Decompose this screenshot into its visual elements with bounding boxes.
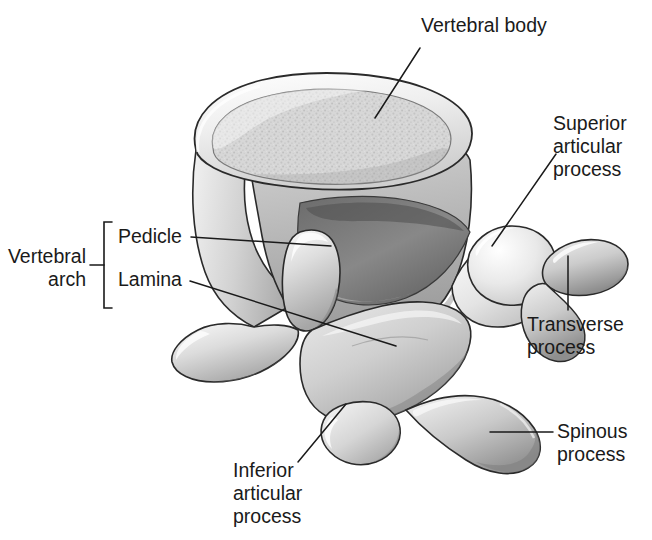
label-spinous-process: Spinous process [557, 420, 627, 466]
label-transverse-process: Transverse process [527, 313, 624, 359]
label-lamina: Lamina [118, 268, 182, 291]
vertebra-illustration [0, 0, 652, 540]
vertebral-arch-bracket [90, 222, 112, 308]
label-inferior-articular-process: Inferior articular process [233, 459, 302, 528]
transverse-process-left [172, 324, 299, 382]
label-pedicle: Pedicle [118, 225, 182, 248]
inferior-articular-process [321, 402, 400, 465]
label-superior-articular-process: Superior articular process [553, 112, 627, 181]
spinous-process [406, 396, 540, 474]
label-vertebral-body: Vertebral body [421, 14, 547, 37]
label-vertebral-arch: Vertebral arch [6, 245, 86, 291]
